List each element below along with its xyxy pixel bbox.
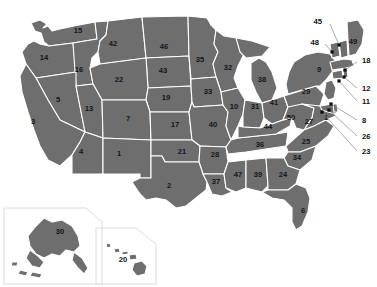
callout-marker-dot <box>337 79 340 82</box>
callout-number-label: 8 <box>362 116 366 125</box>
callout-marker-dot <box>320 110 323 113</box>
callout-number-label: 48 <box>311 38 319 47</box>
state-south-dakota[interactable] <box>146 56 191 88</box>
state-number-label: 28 <box>211 150 219 159</box>
state-new-hampshire[interactable] <box>339 40 348 58</box>
state-number-label: 22 <box>115 75 123 84</box>
state-number-label: 33 <box>204 87 212 96</box>
callout-marker-dot <box>342 75 345 78</box>
state-number-label: 21 <box>178 147 187 156</box>
state-number-label: 41 <box>270 98 279 107</box>
state-number-label: 20 <box>119 255 127 264</box>
state-number-label: 30 <box>56 227 64 236</box>
state-connecticut[interactable] <box>332 70 343 79</box>
state-alaska-aleutian-3[interactable] <box>11 262 18 266</box>
state-hawaii-maui[interactable] <box>129 254 137 260</box>
state-number-label: 44 <box>264 122 273 131</box>
state-number-label: 10 <box>230 102 238 111</box>
state-hawaii-oahu[interactable] <box>114 248 120 253</box>
state-new-mexico[interactable] <box>103 138 151 178</box>
state-number-label: 39 <box>254 170 262 179</box>
callout-number-label: 12 <box>362 84 370 93</box>
callout-marker-dot <box>330 50 333 53</box>
state-number-label: 36 <box>256 140 264 149</box>
state-number-label: 42 <box>109 39 117 48</box>
state-number-label: 38 <box>258 75 266 84</box>
state-number-label: 49 <box>349 37 357 46</box>
state-number-label: 46 <box>160 42 168 51</box>
state-north-dakota[interactable] <box>142 16 189 58</box>
state-number-label: 3 <box>31 117 35 126</box>
state-number-label: 7 <box>126 114 130 123</box>
state-number-label: 19 <box>162 93 170 102</box>
state-number-label: 43 <box>159 66 167 75</box>
state-number-label: 25 <box>302 137 311 146</box>
state-number-label: 13 <box>85 104 93 113</box>
state-number-label: 15 <box>74 26 83 35</box>
state-number-label: 9 <box>317 65 321 74</box>
callout-number-label: 45 <box>314 17 323 26</box>
state-number-label: 31 <box>251 102 260 111</box>
state-number-label: 47 <box>234 170 242 179</box>
state-number-label: 35 <box>196 55 205 64</box>
state-number-label: 16 <box>75 65 83 74</box>
callout-marker-dot <box>337 43 340 46</box>
state-number-label: 6 <box>301 206 305 215</box>
callout-number-label: 11 <box>362 97 371 106</box>
state-number-label: 24 <box>279 170 288 179</box>
map-canvas: 1514164246353222433338513191031412993717… <box>0 0 377 287</box>
callout-number-label: 18 <box>362 56 370 65</box>
state-number-label: 27 <box>305 117 313 126</box>
state-number-label: 29 <box>302 87 310 96</box>
us-states-numbered-map: 1514164246353222433338513191031412993717… <box>0 0 377 287</box>
state-number-label: 14 <box>40 53 49 62</box>
state-number-label: 32 <box>224 63 232 72</box>
state-number-label: 40 <box>209 120 217 129</box>
state-number-label: 50 <box>287 113 295 122</box>
state-number-label: 17 <box>171 120 179 129</box>
state-number-label: 34 <box>293 153 302 162</box>
callout-number-label: 26 <box>362 132 370 141</box>
callout-number-label: 23 <box>362 147 370 156</box>
state-hawaii-kauai[interactable] <box>106 243 111 248</box>
state-number-label: 37 <box>212 177 220 186</box>
state-number-label: 2 <box>167 181 171 190</box>
callout-marker-dot <box>343 68 346 71</box>
callout-marker-dot <box>329 102 332 105</box>
callout-marker-dot <box>327 108 330 111</box>
